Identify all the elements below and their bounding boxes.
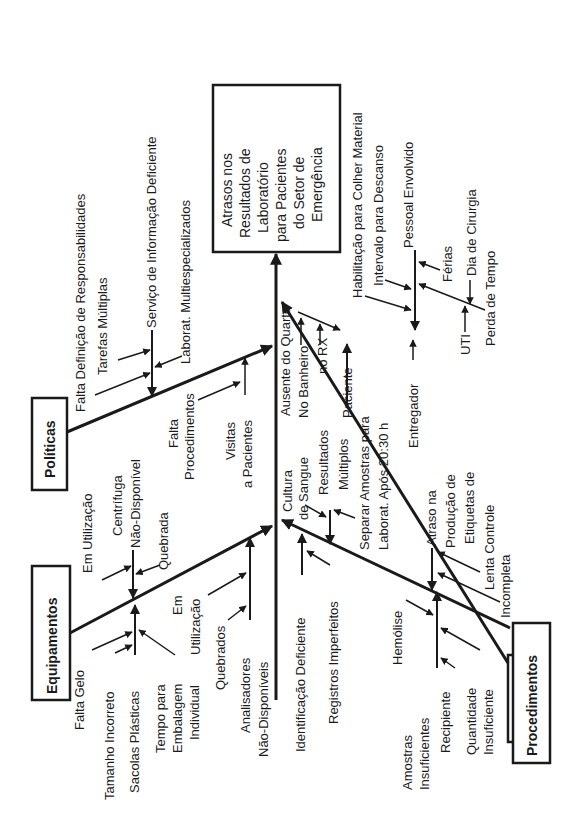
cause-atraso-3: Etiquetas de xyxy=(462,472,477,544)
cause-centrifuga: Centrífuga xyxy=(110,475,125,536)
arrow-em-utilizacao-2 xyxy=(208,573,246,595)
cause-ausente-quarto: Ausente do Quarto xyxy=(278,307,293,416)
arrow-ausente-quarto xyxy=(298,312,340,330)
cause-pessoal-envolvido: Pessoal Envolvido xyxy=(401,142,416,248)
cause-atraso-2: Produção de xyxy=(443,474,458,548)
cause-hemolise: Hemólise xyxy=(390,611,405,665)
cause-amostras-2: Insuficientes xyxy=(417,717,432,790)
effect-line-1: Atrasos nos xyxy=(219,153,235,227)
cause-nao-disponivel-1: Não-Disponível xyxy=(128,459,143,548)
cause-identificacao: Identificação Deficiente xyxy=(293,618,308,752)
cause-cultura-2: de Sangue xyxy=(296,457,311,520)
effect-line-3: Laboratório xyxy=(255,162,271,233)
arrow-separar-amostras xyxy=(334,510,355,518)
cause-tarefas-multiplas: Tarefas Múltiplas xyxy=(95,277,110,375)
arrow-falta-procedimentos xyxy=(198,382,240,400)
cause-utilizacao-2: Utilização xyxy=(188,599,203,655)
cause-quebrada: Quebrada xyxy=(156,511,171,570)
cause-analisadores: Analisadores xyxy=(238,657,253,733)
cause-falta-gelo: Falta Gelo xyxy=(72,670,87,730)
arrow-habilitacao xyxy=(365,296,411,310)
cause-intervalo: Intervalo para Descanso xyxy=(371,145,386,286)
cause-nao-disponiveis: Não-Disponíveis xyxy=(256,661,271,757)
cause-servico-informacao: Serviço de Informação Deficiente xyxy=(144,137,159,328)
cause-registros: Registros Imperfeitos xyxy=(326,601,341,724)
cause-incompleta: Incompleta xyxy=(498,554,513,618)
effect-line-6: Emergência xyxy=(309,147,325,222)
cause-sacolas-plasticas: Sacolas Plásticas xyxy=(127,691,142,793)
effect-line-5: do Setor de xyxy=(291,156,307,229)
arrow-tempo-embalagem xyxy=(139,630,175,655)
cause-falta-definicao: Falta Definição de Responsabilidades xyxy=(73,193,88,412)
cause-no-banheiro: No Banheiro xyxy=(296,346,311,418)
cause-quantidade-2: Insuficiente xyxy=(481,689,496,755)
arrow-intervalo xyxy=(385,280,411,289)
cause-resultados-2: Múltiplos xyxy=(336,438,351,490)
cause-separar-1: Separar Amostras para xyxy=(357,416,372,550)
effect-line-4: para Pacientes xyxy=(273,149,289,242)
branch-equipamentos xyxy=(70,526,272,633)
cause-quantidade-1: Quantidade xyxy=(464,688,479,755)
cause-visitas-1: Visitas xyxy=(223,421,238,460)
cause-tempo-3: Individual xyxy=(187,685,202,740)
arrow-perda-tempo xyxy=(419,284,485,310)
cause-recipiente: Recipiente xyxy=(438,692,453,753)
cause-visitas-2: a Pacientes xyxy=(240,420,255,488)
arrow-quebrados xyxy=(228,606,246,620)
cause-tamanho-incorreto: Tamanho Incorreto xyxy=(102,692,117,800)
category-label-procedimentos: Procedimentos xyxy=(524,655,540,756)
category-equipamentos: Equipamentos Em Utilização Centrífuga Nã… xyxy=(32,459,272,800)
cause-tempo-1: Tempo para xyxy=(153,684,168,753)
cause-resultados-1: Resultados xyxy=(316,429,331,495)
cause-cultura-1: Cultura xyxy=(280,469,295,512)
cause-dia-cirurgia: Dia de Cirurgia xyxy=(464,189,479,276)
cause-entregador: Entregador xyxy=(406,383,421,448)
cause-em-2: Em xyxy=(170,596,185,616)
cause-atraso-1: Atraso na xyxy=(424,490,439,546)
arrow-registros xyxy=(307,551,330,565)
effect-line-2: Resultados de xyxy=(237,148,253,238)
arrow-hemolise xyxy=(406,600,433,615)
cause-lenta-controle: Lenta Controle xyxy=(482,505,497,590)
cause-ferias: Férias xyxy=(440,245,455,282)
arrow-ferias xyxy=(419,262,440,270)
arrow-tarefas-multiplas xyxy=(95,373,150,395)
arrow-em-utilizacao-1 xyxy=(102,566,131,580)
cause-separar-2: Laborat. Após 20:30 h xyxy=(376,423,391,550)
category-label-politicas: Políticas xyxy=(42,420,58,478)
cause-amostras-1: Amostras xyxy=(400,735,415,790)
cause-no-rx: no RX xyxy=(315,338,330,374)
cause-laborat-multiesp: Laborat. Multiespecializados xyxy=(178,199,193,364)
cause-habilitacao: Habilitação para Colher Material xyxy=(350,112,365,298)
effect-box: Atrasos nos Resultados de Laboratório pa… xyxy=(213,85,340,252)
cause-quebrados: Quebrados xyxy=(213,625,228,690)
cause-uti: UTI xyxy=(458,334,473,355)
cause-tempo-2: Embalagem xyxy=(170,684,185,753)
cause-em-utilizacao-1: Em Utilização xyxy=(80,494,95,573)
arrow-falta-definicao xyxy=(118,350,150,360)
category-label-equipamentos: Equipamentos xyxy=(44,597,60,694)
arrow-tamanho-incorreto xyxy=(115,645,132,653)
arrow-recipiente xyxy=(441,658,455,668)
fishbone-diagram: Atrasos nos Resultados de Laboratório pa… xyxy=(0,0,584,830)
arrow-quantidade xyxy=(441,628,480,650)
cause-paciente: Paciente xyxy=(340,367,355,418)
cause-falta-proc-1: Falta xyxy=(166,418,181,448)
cause-perda-tempo: Perda de Tempo xyxy=(483,251,498,346)
cause-falta-proc-2: Procedimentos xyxy=(182,393,197,480)
